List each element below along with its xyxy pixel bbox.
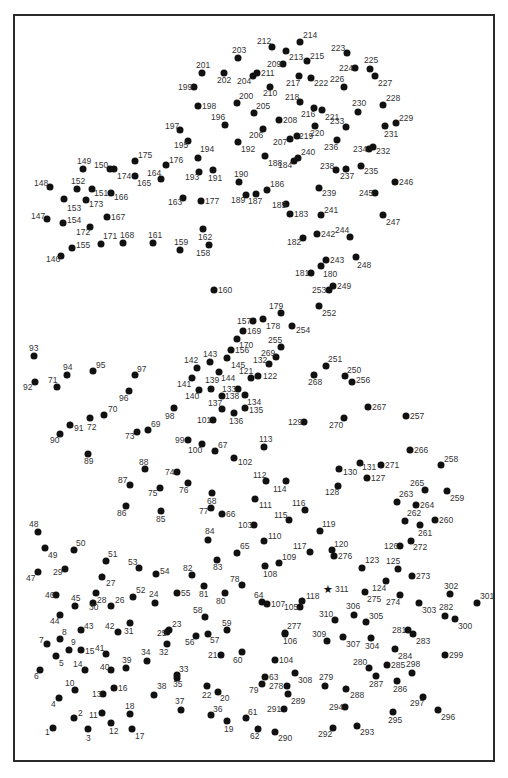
dot-label: 294 [329, 703, 343, 712]
dot-label: 88 [139, 458, 148, 467]
dot-266 [407, 447, 414, 454]
dot-label: 49 [48, 551, 57, 560]
dot-14 [82, 667, 89, 674]
dot-label: 56 [185, 638, 194, 647]
dot-9 [66, 647, 73, 654]
dot-label: 296 [441, 713, 455, 722]
dot-177 [198, 198, 205, 205]
dot-282 [442, 613, 449, 620]
dot-262 [402, 518, 409, 525]
dot-label: 207 [273, 138, 287, 147]
dot-label: 289 [291, 697, 305, 706]
dot-label: 290 [278, 734, 292, 743]
dot-226 [341, 84, 348, 91]
dot-label: 122 [263, 372, 277, 381]
dot-label: 181 [295, 269, 309, 278]
dot-label: 131 [362, 463, 376, 472]
dot-label: 11 [89, 711, 98, 720]
dot-label: 42 [105, 622, 114, 631]
dot-label: 183 [294, 210, 308, 219]
dot-135 [242, 405, 249, 412]
dot-203 [235, 55, 242, 62]
dot-label: 188 [268, 159, 282, 168]
dot-label: 176 [169, 156, 183, 165]
dot-label: 116 [292, 499, 306, 508]
dot-label: 236 [324, 143, 338, 152]
dot-label: 45 [71, 594, 80, 603]
dot-label: 203 [232, 46, 246, 55]
dot-label: 305 [369, 612, 383, 621]
dot-label: 114 [273, 485, 287, 494]
dot-label: 37 [175, 697, 184, 706]
dot-label: 38 [157, 682, 166, 691]
dot-label: 310 [319, 610, 333, 619]
dot-label: 212 [257, 37, 271, 46]
dot-label: 295 [388, 716, 402, 725]
dot-225 [367, 66, 374, 73]
dot-label: 58 [193, 606, 202, 615]
dot-label: 277 [287, 622, 301, 631]
dot-39 [123, 665, 130, 672]
dot-label: 141 [177, 380, 191, 389]
dot-label: 102 [238, 458, 252, 467]
dot-264 [413, 502, 420, 509]
dot-161 [150, 240, 157, 247]
dot-label: 85 [156, 515, 165, 524]
dot-211 [254, 70, 261, 77]
dot-label: 21 [208, 651, 217, 660]
dot-label: 240 [301, 148, 315, 157]
dot-label: 40 [100, 663, 109, 672]
dot-label: 125 [386, 557, 400, 566]
dot-label: 137 [208, 399, 222, 408]
dot-110 [261, 538, 268, 545]
dot-label: 161 [148, 231, 162, 240]
dot-label: 298 [406, 660, 420, 669]
dot-label: 250 [347, 366, 361, 375]
dot-label: 200 [239, 92, 253, 101]
dot-label: 119 [322, 520, 336, 529]
dot-label: 82 [183, 564, 192, 573]
start-label: 311 [335, 585, 349, 594]
dot-label: 115 [274, 511, 288, 520]
dot-label: 163 [168, 198, 182, 207]
dot-201 [199, 70, 206, 77]
dot-label: 258 [444, 455, 458, 464]
dot-113 [261, 444, 268, 451]
dot-label: 20 [220, 694, 229, 703]
dot-label: 9 [71, 638, 76, 647]
dot-label: 86 [117, 509, 126, 518]
dot-label: 96 [119, 394, 128, 403]
dot-2 [71, 715, 78, 722]
dot-label: 237 [340, 172, 354, 181]
dot-label: 164 [147, 169, 161, 178]
dot-label: 113 [259, 435, 273, 444]
dot-122 [255, 373, 262, 380]
dot-label: 128 [325, 488, 339, 497]
dot-label: 117 [293, 542, 307, 551]
dot-label: 64 [254, 591, 263, 600]
dot-label: 215 [310, 52, 324, 61]
dot-label: 41 [95, 644, 104, 653]
dot-puzzle-canvas: 1234567891011121314151617181920212223242… [0, 0, 508, 778]
dot-label: 146 [46, 255, 60, 264]
dot-208 [276, 117, 283, 124]
dot-label: 118 [306, 592, 320, 601]
dot-label: 99 [175, 436, 184, 445]
dot-156 [228, 347, 235, 354]
dot-label: 172 [76, 228, 90, 237]
dot-label: 97 [137, 365, 146, 374]
dot-label: 306 [346, 602, 360, 611]
dot-label: 267 [372, 403, 386, 412]
dot-207 [287, 136, 294, 143]
dot-7 [44, 641, 51, 648]
dot-263 [394, 499, 401, 506]
dot-label: 227 [378, 79, 392, 88]
dot-label: 111 [259, 501, 272, 510]
dot-label: 162 [198, 233, 212, 242]
dot-label: 83 [213, 563, 222, 572]
dot-168 [120, 240, 127, 247]
dot-label: 95 [96, 361, 105, 370]
dot-label: 168 [120, 231, 134, 240]
dot-label: 65 [240, 542, 249, 551]
dot-54 [153, 571, 160, 578]
